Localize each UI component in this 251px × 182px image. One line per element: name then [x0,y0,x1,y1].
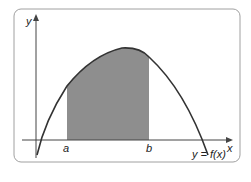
upper-bound-label: b [146,142,152,154]
integral-diagram: y x a b y = f(x) [0,0,251,182]
curve-label: y = f(x) [191,148,226,160]
lower-bound-label: a [63,142,69,154]
x-axis-label: x [226,142,233,154]
